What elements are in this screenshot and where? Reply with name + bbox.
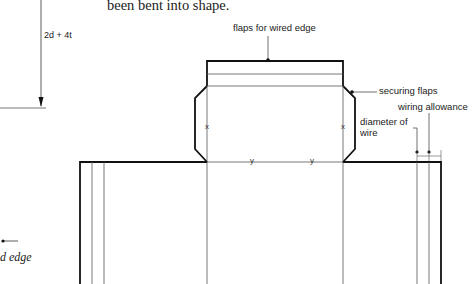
flaps-wired-edge-label: flaps for wired edge	[233, 22, 316, 33]
left-edge-arrow	[1, 239, 18, 242]
wire-dimension-markers	[413, 113, 441, 162]
securing-flaps-label: securing flaps	[379, 85, 438, 96]
x-mark-right: x	[341, 122, 345, 131]
wired-edge-flap	[207, 61, 343, 86]
securing-flaps-leader	[350, 90, 377, 94]
sheet-metal-development-diagram	[0, 0, 474, 284]
left-edge-label: d edge	[0, 250, 32, 265]
height-dimension-arrow	[0, 0, 46, 108]
wiring-allowance-label: wiring allowance	[398, 101, 468, 112]
height-dimension-label: 2d + 4t	[44, 30, 72, 40]
diameter-of-wire-label-line1: diameter of	[360, 116, 408, 127]
flaps-leader	[266, 36, 270, 62]
y-mark-left: y	[250, 156, 254, 165]
x-mark-left: x	[205, 122, 209, 131]
diameter-of-wire-label-line2: wire	[360, 127, 377, 138]
y-mark-right: y	[310, 156, 314, 165]
side-panels	[80, 162, 441, 284]
body-text-fragment: been bent into shape.	[107, 0, 229, 14]
central-panel	[207, 86, 343, 284]
